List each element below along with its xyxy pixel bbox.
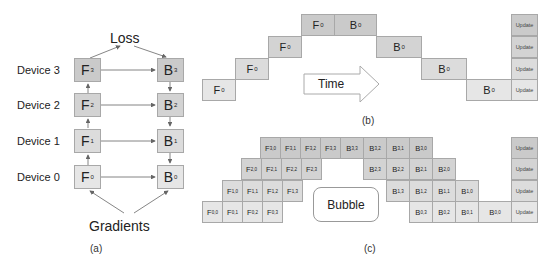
- block-subscript: 0,2: [252, 210, 258, 215]
- gradients-label: Gradients: [89, 218, 150, 234]
- c-forward-0-2: F0,2: [242, 201, 263, 223]
- c-backward-3-1: B3,1: [386, 137, 410, 159]
- block-subscript: 1,3: [397, 189, 403, 194]
- block-letter: B: [164, 169, 173, 185]
- block-subscript: 0,3: [272, 210, 278, 215]
- caption-c: (c): [364, 243, 376, 254]
- c-backward-3-0: B3,0: [409, 137, 433, 159]
- block-subscript: 0: [254, 66, 257, 72]
- bubble-label: Bubble: [313, 187, 379, 222]
- c-forward-0-1: F0,1: [222, 201, 243, 223]
- block-subscript: 3,1: [290, 146, 296, 151]
- block-subscript: 2,0: [443, 167, 449, 172]
- c-backward-2-0: B2,0: [432, 158, 456, 180]
- block-subscript: 0,2: [443, 210, 449, 215]
- device-1-label: Device 1: [17, 135, 60, 147]
- block-subscript: 0: [91, 174, 94, 180]
- block-subscript: 0,0: [212, 210, 218, 215]
- c-update-device-2: Update: [511, 158, 538, 180]
- c-backward-1-3: B1,3: [386, 180, 410, 202]
- block-subscript: 2,1: [420, 167, 426, 172]
- block-letter: B: [350, 19, 357, 31]
- c-backward-2-2: B2,2: [386, 158, 410, 180]
- block-subscript: 0,1: [466, 210, 472, 215]
- block-letter: F: [246, 63, 253, 75]
- b-update-device-1: Update: [511, 58, 538, 80]
- block-subscript: 3,2: [374, 146, 380, 151]
- c-backward-0-0: B0,0: [478, 201, 512, 223]
- backward-block-device-2: B2: [157, 93, 184, 117]
- block-subscript: 1,3: [292, 189, 298, 194]
- block-subscript: 1,2: [272, 189, 278, 194]
- c-update-device-0: Update: [511, 201, 538, 223]
- block-letter: B: [438, 63, 445, 75]
- block-subscript: 0: [447, 66, 450, 72]
- block-letter: B: [393, 41, 400, 53]
- block-letter: B: [164, 97, 173, 113]
- forward-block-device-1: F1: [74, 129, 101, 153]
- block-subscript: 0,1: [232, 210, 238, 215]
- c-backward-2-1: B2,1: [409, 158, 433, 180]
- block-letter: F: [81, 133, 90, 149]
- c-forward-0-3: F0,3: [262, 201, 283, 223]
- c-backward-1-0: B1,0: [455, 180, 479, 202]
- block-subscript: 3,0: [420, 146, 426, 151]
- block-subscript: 1,0: [232, 189, 238, 194]
- block-letter: F: [81, 169, 90, 185]
- block-subscript: 2,3: [374, 167, 380, 172]
- caption-b: (b): [362, 115, 374, 126]
- block-subscript: 3,3: [330, 146, 336, 151]
- c-backward-0-3: B0,3: [409, 201, 433, 223]
- b-update-device-0: Update: [511, 79, 538, 101]
- block-subscript: 2,0: [251, 167, 257, 172]
- c-forward-2-2: F2,2: [281, 158, 302, 180]
- block-subscript: 0,0: [494, 210, 500, 215]
- b-forward-device-2: F0: [268, 36, 302, 58]
- block-subscript: 0: [174, 174, 177, 180]
- block-subscript: 1: [91, 138, 94, 144]
- block-subscript: 3: [91, 67, 94, 73]
- block-subscript: 1,1: [443, 189, 449, 194]
- c-backward-3-3: B3,3: [340, 137, 364, 159]
- block-letter: B: [164, 133, 173, 149]
- b-backward-device-3: B0: [334, 14, 377, 36]
- c-forward-1-2: F1,2: [262, 180, 283, 202]
- c-backward-2-3: B2,3: [363, 158, 387, 180]
- block-subscript: 3,1: [397, 146, 403, 151]
- block-letter: F: [312, 19, 319, 31]
- b-backward-device-1: B0: [421, 58, 467, 80]
- c-forward-3-1: F3,1: [280, 137, 301, 159]
- block-subscript: 2: [91, 102, 94, 108]
- c-forward-1-3: F1,3: [282, 180, 303, 202]
- block-subscript: 1,0: [466, 189, 472, 194]
- block-subscript: 0: [402, 44, 405, 50]
- c-backward-0-2: B0,2: [432, 201, 456, 223]
- block-subscript: 3: [174, 67, 177, 73]
- b-forward-device-1: F0: [235, 58, 269, 80]
- block-letter: F: [279, 41, 286, 53]
- block-subscript: 2,2: [397, 167, 403, 172]
- block-subscript: 0: [320, 22, 323, 28]
- block-letter: F: [81, 62, 90, 78]
- block-subscript: 3,0: [270, 146, 276, 151]
- backward-block-device-1: B1: [157, 129, 184, 153]
- c-forward-2-0: F2,0: [241, 158, 262, 180]
- b-update-device-3: Update: [511, 14, 538, 36]
- device-3-label: Device 3: [17, 64, 60, 76]
- block-subscript: 2,1: [271, 167, 277, 172]
- loss-label: Loss: [110, 30, 140, 46]
- c-backward-1-1: B1,1: [432, 180, 456, 202]
- block-subscript: 1,1: [252, 189, 258, 194]
- c-forward-3-0: F3,0: [260, 137, 281, 159]
- c-forward-0-0: F0,0: [202, 201, 223, 223]
- block-letter: F: [81, 97, 90, 113]
- block-subscript: 0: [221, 87, 224, 93]
- block-subscript: 0,3: [420, 210, 426, 215]
- forward-block-device-0: F0: [74, 165, 101, 189]
- backward-block-device-0: B0: [157, 165, 184, 189]
- c-update-device-3: Update: [511, 137, 538, 159]
- c-forward-3-3: F3,3: [320, 137, 341, 159]
- c-forward-2-1: F2,1: [261, 158, 282, 180]
- block-subscript: 2,2: [291, 167, 297, 172]
- block-subscript: 2: [174, 102, 177, 108]
